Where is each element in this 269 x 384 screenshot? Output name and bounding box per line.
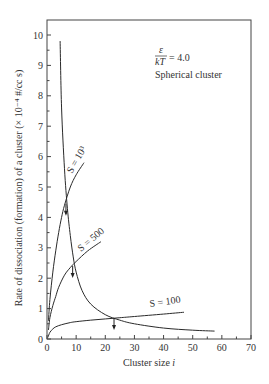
y-tick-label: 1 [38,303,43,314]
y-tick-label: 10 [33,30,43,41]
x-tick-label: 50 [188,342,198,353]
y-tick-label: 5 [38,182,43,193]
y-tick-label: 9 [38,60,43,71]
plot-border [47,20,251,339]
x-tick-label: 20 [100,342,110,353]
y-axis-title: Rate of dissociation (formation) of a cl… [13,70,25,307]
x-axis-title: Cluster size i [123,357,175,368]
series-curve-3 [48,312,184,337]
svg-text:ε: ε [159,44,163,55]
x-tick-label: 0 [45,342,50,353]
y-tick-label: 8 [38,90,43,101]
data-curves [48,41,215,337]
x-tick-label: 60 [217,342,227,353]
svg-text:kT: kT [155,56,166,67]
y-tick-label: 2 [38,273,43,284]
arrow-down-icon [64,211,68,216]
parameter-annotation: ε kT = 4.0 Spherical cluster [155,44,223,80]
plot-frame [47,20,251,339]
arrow-down-icon [71,273,75,278]
shape-label: Spherical cluster [155,69,223,80]
series-curve-0 [60,41,214,331]
svg-text:= 4.0: = 4.0 [169,52,190,63]
y-tick-label: 7 [38,121,43,132]
y-tick-label: 4 [38,212,43,223]
y-tick-label: 0 [38,334,43,345]
series-label-s100: S = 100 [149,294,181,309]
intersection-arrows [64,204,116,330]
series-label-s1000: S = 10³ [64,144,88,175]
x-tick-label: 40 [159,342,169,353]
arrow-down-icon [112,325,116,330]
x-tick-label: 30 [129,342,139,353]
chart: 010203040506070012345678910 S = 10³ S = … [0,0,269,384]
y-tick-label: 6 [38,151,43,162]
x-tick-label: 10 [71,342,81,353]
x-tick-label: 70 [246,342,256,353]
y-tick-label: 3 [38,242,43,253]
series-curve-2 [48,242,100,330]
